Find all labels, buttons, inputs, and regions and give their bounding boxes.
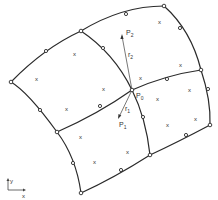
edge-right-top xyxy=(164,6,201,70)
edge-bottom-left xyxy=(81,155,150,193)
label-p2: P2 xyxy=(126,29,134,38)
node xyxy=(141,115,144,118)
axis-y-label: y xyxy=(10,178,13,184)
node-p0 xyxy=(130,88,134,92)
x-arrow-icon xyxy=(23,189,26,192)
edge-inner-upper xyxy=(81,31,132,90)
gauss-point: x xyxy=(156,96,159,102)
gauss-point: x xyxy=(158,19,161,25)
node xyxy=(184,133,187,136)
mesh-edges xyxy=(11,6,210,193)
label-p1: P1 xyxy=(119,121,127,130)
gauss-point: x xyxy=(35,76,38,82)
node xyxy=(148,153,152,157)
gauss-point: x xyxy=(188,87,191,93)
axis-x-label: x xyxy=(22,193,25,199)
gauss-point: x xyxy=(179,62,182,68)
node xyxy=(44,49,47,52)
node xyxy=(119,168,122,171)
node xyxy=(162,4,166,8)
edge-right-bottom xyxy=(201,70,210,125)
vector-r2 xyxy=(122,36,132,90)
gauss-point: x xyxy=(79,134,82,140)
node xyxy=(124,12,127,15)
edge-top-left xyxy=(11,31,81,82)
gauss-points: x x x x x x x x x x x x x x xyxy=(35,19,197,165)
arrowhead-p1-icon xyxy=(118,114,121,119)
fem-mesh-diagram: x x x x x x x x x x x x x x P2 r2 P0 r1 … xyxy=(0,0,218,200)
node xyxy=(206,87,209,90)
label-r1: r1 xyxy=(125,105,130,114)
node xyxy=(9,80,13,84)
label-r2: r2 xyxy=(128,51,133,60)
edge-left-bottom xyxy=(57,132,81,193)
gauss-point: x xyxy=(194,116,197,122)
node xyxy=(199,68,203,72)
node xyxy=(165,77,168,80)
node xyxy=(71,161,74,164)
corner-nodes xyxy=(9,4,212,195)
gauss-point: x xyxy=(166,122,169,128)
node xyxy=(101,46,104,49)
gauss-point: x xyxy=(65,106,68,112)
node xyxy=(79,191,83,195)
node xyxy=(55,130,59,134)
mid-nodes xyxy=(38,12,209,171)
gauss-point: x xyxy=(126,149,129,155)
edge-bottom-right xyxy=(150,125,210,155)
arrowhead-p2-icon xyxy=(120,34,123,39)
axis-indicator: y x xyxy=(7,178,27,199)
label-p0: P0 xyxy=(136,92,144,101)
edge-left-top xyxy=(11,82,57,132)
gauss-point: x xyxy=(73,51,76,57)
node xyxy=(178,26,181,29)
gauss-point: x xyxy=(102,86,105,92)
node xyxy=(38,108,41,111)
node xyxy=(208,123,212,127)
node xyxy=(79,29,83,33)
edge-top-right xyxy=(81,6,164,31)
gauss-point: x xyxy=(139,75,142,81)
node xyxy=(98,104,101,107)
gauss-point: x xyxy=(93,159,96,165)
